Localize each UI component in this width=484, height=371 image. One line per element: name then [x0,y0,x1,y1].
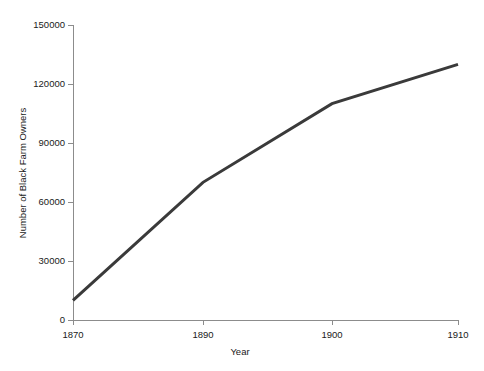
x-tick-label: 1910 [418,330,484,340]
y-tick-label: 0 [60,315,65,325]
chart-plot-area [0,0,484,371]
tick-marks-group [68,26,459,326]
x-tick-label: 1890 [163,330,243,340]
x-tick-label: 1870 [33,330,113,340]
y-tick-label: 150000 [33,20,65,30]
y-tick-label: 60000 [39,197,65,207]
y-tick-label: 90000 [39,138,65,148]
x-axis-title: Year [0,347,482,357]
line-chart: 0300006000090000120000150000 18701890190… [0,0,484,371]
data-series-line [73,64,458,300]
x-tick-label: 1900 [292,330,372,340]
axes-group [73,25,458,321]
y-tick-label: 120000 [33,79,65,89]
y-axis-title: Number of Black Farm Owners [18,107,28,237]
y-tick-label: 30000 [39,256,65,266]
